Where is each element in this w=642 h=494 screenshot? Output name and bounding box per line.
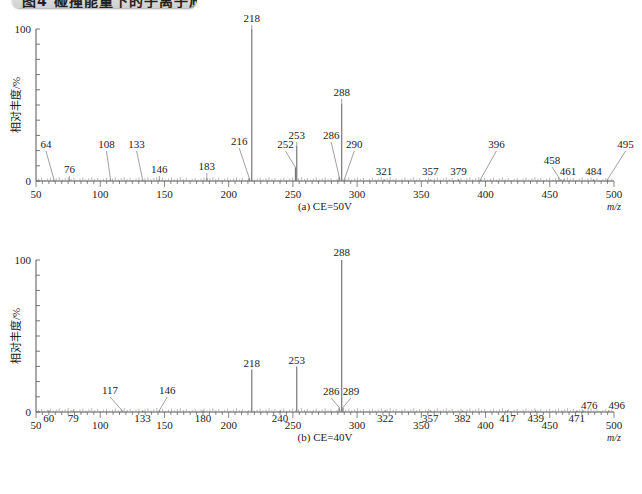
y-tick-label-100: 100: [15, 254, 32, 266]
x-tick-label: 50: [31, 419, 43, 431]
chart-caption: (a) CE=50V: [298, 200, 352, 213]
leader-line: [285, 151, 295, 167]
peak-label-357: 357: [422, 412, 439, 424]
peak-label-133: 133: [134, 412, 151, 424]
leader-line: [159, 397, 167, 410]
x-tick-label: 100: [92, 188, 109, 200]
leader-line: [137, 151, 143, 179]
leader-line: [239, 148, 249, 178]
peak-label-357: 357: [422, 165, 439, 177]
x-axis-unit: m/z: [607, 201, 621, 212]
peak-label-76: 76: [64, 163, 76, 175]
x-tick-label: 500: [606, 419, 623, 431]
x-tick-label: 50: [31, 188, 43, 200]
x-tick-label: 200: [220, 188, 237, 200]
peak-label-79: 79: [68, 412, 80, 424]
x-tick-label: 300: [349, 188, 366, 200]
y-tick-label-0: 0: [26, 406, 32, 418]
peak-label-290: 290: [346, 138, 363, 150]
peak-label-253: 253: [288, 129, 305, 141]
x-axis-unit: m/z: [607, 432, 621, 443]
leader-line: [331, 398, 339, 407]
peak-label-288: 288: [333, 247, 350, 258]
peak-label-146: 146: [159, 384, 176, 396]
peak-label-216: 216: [231, 135, 248, 147]
leader-line: [46, 151, 54, 179]
leader-line: [343, 398, 351, 407]
x-tick-label: 300: [349, 419, 366, 431]
peak-label-289: 289: [343, 385, 360, 397]
peak-label-461: 461: [560, 165, 577, 177]
x-tick-label: 150: [156, 188, 173, 200]
peak-label-286: 286: [323, 129, 340, 141]
x-tick-label: 400: [477, 419, 494, 431]
y-tick-label-100: 100: [15, 23, 32, 35]
peak-label-379: 379: [450, 165, 467, 177]
y-axis-label: 相对丰度/%: [9, 77, 22, 133]
peak-label-458: 458: [544, 154, 561, 166]
x-tick-label: 250: [285, 188, 302, 200]
x-tick-label: 450: [542, 188, 559, 200]
peak-label-495: 495: [617, 138, 634, 150]
peak-label-382: 382: [454, 412, 471, 424]
peak-label-322: 322: [377, 412, 394, 424]
peak-label-117: 117: [102, 384, 119, 396]
peak-label-288: 288: [333, 86, 350, 98]
x-tick-label: 200: [220, 419, 237, 431]
peak-label-396: 396: [488, 138, 505, 150]
peak-label-496: 496: [609, 399, 626, 411]
peak-label-146: 146: [151, 163, 168, 175]
leader-line: [331, 142, 339, 176]
peak-label-60: 60: [43, 412, 55, 424]
peak-label-183: 183: [199, 160, 216, 172]
leader-line: [106, 151, 110, 179]
leader-line: [480, 151, 496, 179]
x-tick-label: 350: [413, 188, 430, 200]
chart-caption: (b) CE=40V: [298, 431, 353, 444]
peak-label-484: 484: [585, 165, 602, 177]
leader-line: [608, 151, 626, 179]
y-tick-label-0: 0: [26, 175, 32, 187]
x-tick-label: 450: [542, 419, 559, 431]
peak-label-471: 471: [569, 412, 586, 424]
x-tick-label: 100: [92, 419, 109, 431]
peak-label-133: 133: [128, 138, 145, 150]
x-tick-label: 150: [156, 419, 173, 431]
peak-label-240: 240: [272, 412, 289, 424]
peak-label-218: 218: [244, 357, 261, 369]
spectrum-chart-b: 1000相对丰度/%50100150200250300350400450500m…: [0, 247, 642, 494]
spectrum-chart-a: 1000相对丰度/%50100150200250300350400450500m…: [0, 0, 642, 247]
y-axis-label: 相对丰度/%: [9, 308, 22, 364]
peak-label-64: 64: [40, 138, 52, 150]
peak-label-476: 476: [581, 399, 598, 411]
peak-label-286: 286: [323, 385, 340, 397]
peak-label-180: 180: [195, 412, 212, 424]
peak-label-417: 417: [499, 412, 516, 424]
peak-label-108: 108: [98, 138, 115, 150]
peak-label-321: 321: [376, 165, 393, 177]
leader-line: [110, 397, 122, 410]
x-tick-label: 500: [606, 188, 623, 200]
peak-label-218: 218: [244, 12, 261, 24]
peak-label-253: 253: [288, 354, 305, 366]
peak-label-439: 439: [527, 412, 544, 424]
leader-line: [344, 151, 354, 179]
x-tick-label: 400: [477, 188, 494, 200]
